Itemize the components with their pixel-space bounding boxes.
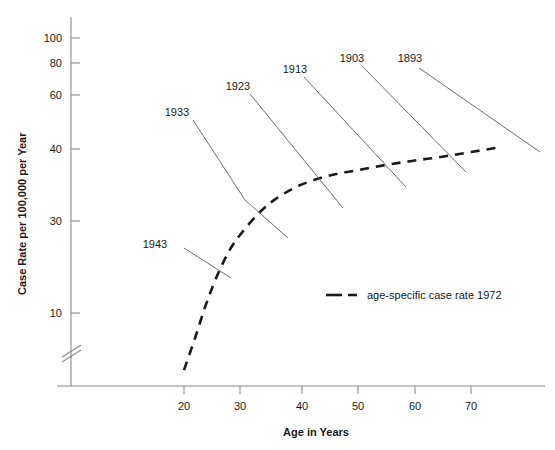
- x-tick-label-40: 40: [296, 400, 308, 412]
- y-tick-label-40: 40: [50, 143, 62, 155]
- y-tick-label-80: 80: [50, 57, 62, 69]
- chart-figure: 100 80 60 40 30 10 Case Rate per 100,000…: [0, 0, 555, 450]
- y-axis-title: Case Rate per 100,000 per Year: [16, 132, 28, 295]
- y-tick-label-10: 10: [50, 307, 62, 319]
- x-tick-label-70: 70: [465, 400, 477, 412]
- cohort-label-1913: 1913: [283, 63, 307, 75]
- cohort-label-1943: 1943: [143, 238, 167, 250]
- x-tick-label-60: 60: [409, 400, 421, 412]
- x-tick-label-20: 20: [178, 400, 190, 412]
- x-axis-title: Age in Years: [283, 426, 349, 438]
- legend-entry-label: age-specific case rate 1972: [367, 289, 502, 301]
- cohort-labels: 1933 1923 1913 1903 1893 1943: [143, 52, 422, 250]
- y-tick-label-30: 30: [50, 215, 62, 227]
- chart-svg: 100 80 60 40 30 10 Case Rate per 100,000…: [0, 0, 555, 450]
- leader-line-1933: [193, 120, 288, 238]
- cohort-label-1923: 1923: [226, 80, 250, 92]
- y-tick-label-100: 100: [44, 32, 62, 44]
- leader-line-1893: [419, 68, 540, 152]
- y-axis: 100 80 60 40 30 10 Case Rate per 100,000…: [16, 17, 81, 386]
- chart-legend: age-specific case rate 1972: [326, 289, 502, 301]
- cohort-label-1903: 1903: [340, 52, 364, 64]
- x-axis: 20 30 40 50 60 70 Age in Years: [57, 386, 545, 438]
- case-rate-1972-curve: [184, 147, 500, 370]
- x-tick-label-30: 30: [234, 400, 246, 412]
- cohort-leader-lines: [184, 66, 540, 278]
- cohort-label-1893: 1893: [398, 52, 422, 64]
- cohort-label-1933: 1933: [165, 106, 189, 118]
- y-tick-label-60: 60: [50, 89, 62, 101]
- leader-line-1923: [250, 94, 343, 208]
- leader-line-1913: [304, 77, 406, 187]
- x-tick-label-50: 50: [352, 400, 364, 412]
